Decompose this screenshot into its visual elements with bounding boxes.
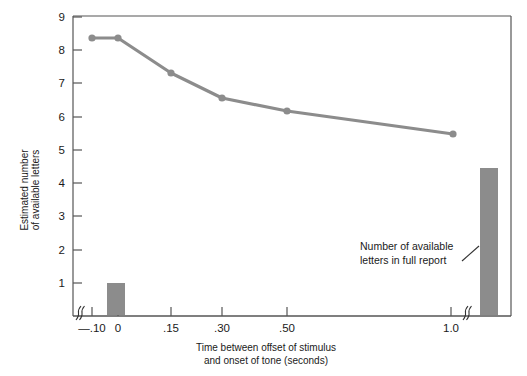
- y-axis-title: Estimated number of available letters: [19, 149, 41, 231]
- x-tick-label-050: .50: [279, 322, 295, 334]
- x-tick-label-015: .15: [163, 322, 179, 334]
- annotation-line2: letters in full report: [360, 254, 446, 266]
- y-axis-title-line2: of available letters: [30, 150, 41, 231]
- chart-figure: 9 8 7 6 5 4 3 2 1 Estimated number of av…: [0, 0, 527, 376]
- y-tick-label-4: 4: [59, 177, 66, 189]
- data-point-marker: [88, 34, 95, 41]
- y-tick-label-1: 1: [59, 277, 65, 289]
- y-axis-tick-labels: 9 8 7 6 5 4 3 2 1: [59, 11, 66, 289]
- y-tick-label-6: 6: [59, 111, 65, 123]
- x-tick-label-030: .30: [214, 322, 230, 334]
- y-tick-label-7: 7: [59, 77, 65, 89]
- bar-full-report-total: [480, 168, 498, 315]
- data-point-marker: [449, 130, 456, 137]
- x-axis-title-line1: Time between offset of stimulus: [196, 342, 336, 353]
- data-point-marker: [167, 69, 174, 76]
- x-tick-label-minus010: —.10: [78, 322, 106, 334]
- y-tick-label-2: 2: [59, 244, 65, 256]
- y-axis-title-line1: Estimated number: [19, 149, 30, 231]
- annotation-line1: Number of available: [360, 240, 454, 252]
- y-tick-label-5: 5: [59, 144, 65, 156]
- y-tick-label-3: 3: [59, 210, 65, 222]
- x-tick-label-10: 1.0: [443, 322, 459, 334]
- data-point-marker: [218, 94, 225, 101]
- data-point-marker: [114, 34, 121, 41]
- y-tick-label-8: 8: [59, 44, 65, 56]
- x-tick-label-0: 0: [115, 322, 121, 334]
- chart-background: [0, 0, 527, 376]
- chart-svg: 9 8 7 6 5 4 3 2 1 Estimated number of av…: [0, 0, 527, 376]
- x-axis-title-line2: and onset of tone (seconds): [204, 355, 328, 366]
- bar-full-report-zero: [107, 283, 125, 315]
- y-tick-label-9: 9: [59, 11, 65, 23]
- data-point-marker: [283, 107, 290, 114]
